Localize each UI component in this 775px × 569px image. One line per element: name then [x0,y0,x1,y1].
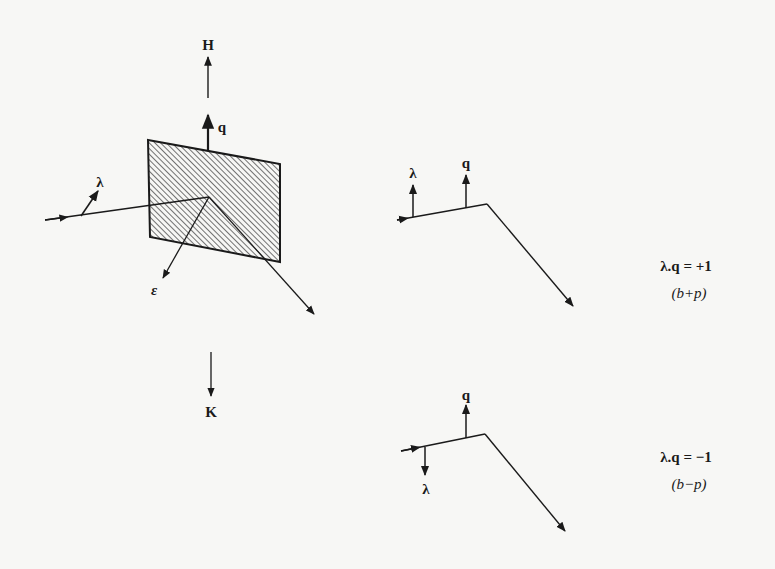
q-vector-label: q [218,119,226,136]
lambda-vector-arrow [81,191,98,216]
q-label-top: q [462,155,470,172]
hatched-plane [148,140,280,262]
q-label-bottom: q [462,387,470,404]
diagram-drawing [0,0,775,569]
top-right-diagram [397,175,573,306]
incoming-ray-arrowhead [45,218,64,221]
ray-in-arrowhead [401,448,416,451]
epsilon-vector-label: ε [151,282,157,299]
helicity-equation-positive: λ.q = +1 [660,258,712,275]
lambda-label-top: λ [409,165,416,182]
case-label-negative: (b−p) [671,476,706,493]
ray-out-segment [487,204,573,306]
lambda-vector-label: λ [96,174,103,191]
left-diagram [45,57,314,396]
ray-out-segment [485,434,565,531]
ray-in-arrowhead [397,219,404,220]
helicity-equation-negative: λ.q = −1 [660,449,712,466]
h-field-label: H [202,37,214,54]
case-label-positive: (b+p) [671,285,706,302]
k-vector-label: K [205,404,217,421]
ray-in-segment [397,204,487,220]
figure-canvas: H q λ ε K λ q λ.q = +1 (b+p) q λ λ.q = −… [0,0,775,569]
lambda-label-bottom: λ [422,481,429,498]
bottom-right-diagram [401,405,565,531]
